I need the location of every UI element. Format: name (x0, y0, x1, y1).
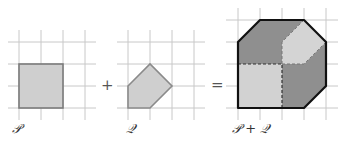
label-sum: 𝒫 + 𝒬 (232, 121, 272, 136)
equals-operator: = (211, 76, 224, 94)
polygon-sum (238, 20, 326, 108)
polygon-p (19, 64, 63, 108)
polygon-q (128, 64, 172, 108)
plus-operator: + (101, 76, 114, 94)
label-p: 𝒫 (12, 121, 25, 136)
minkowski-sum-figure: 𝒫 + 𝒬 = (0, 0, 344, 143)
label-q: 𝒬 (126, 121, 138, 136)
